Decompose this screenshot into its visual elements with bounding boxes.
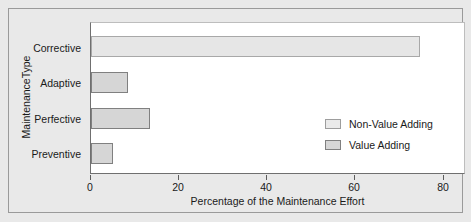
bar-adaptive[interactable]	[91, 72, 128, 93]
x-axis-tick-40	[266, 175, 267, 180]
x-axis-tick-20	[178, 175, 179, 180]
x-axis-title: Percentage of the Maintenance Effort	[90, 195, 465, 207]
x-axis-tick-label-60: 60	[334, 181, 374, 193]
y-axis-tick-label-adaptive: Adaptive	[9, 77, 81, 89]
chart-border-box: MaintenanceType Corrective Adaptive Perf…	[8, 8, 463, 213]
y-axis-tick-label-perfective: Perfective	[9, 113, 81, 125]
y-axis-tick-label-corrective: Corrective	[9, 42, 81, 54]
chart-figure: MaintenanceType Corrective Adaptive Perf…	[0, 0, 471, 222]
legend-item-non-value-adding[interactable]: Non-Value Adding	[325, 115, 433, 132]
bar-corrective[interactable]	[91, 36, 420, 57]
legend: Non-Value Adding Value Adding	[325, 115, 433, 157]
legend-swatch-icon-non-value-adding	[325, 119, 341, 129]
legend-label-value-adding: Value Adding	[349, 139, 410, 151]
x-axis-tick-label-20: 20	[158, 181, 198, 193]
x-axis-tick-60	[354, 175, 355, 180]
bar-preventive[interactable]	[91, 143, 113, 164]
x-axis-tick-label-40: 40	[246, 181, 286, 193]
x-axis-tick-label-80: 80	[423, 181, 463, 193]
bar-row-corrective	[91, 36, 464, 57]
y-axis-tick-label-preventive: Preventive	[9, 148, 81, 160]
legend-label-non-value-adding: Non-Value Adding	[349, 118, 433, 130]
x-axis-tick-0	[90, 175, 91, 180]
legend-item-value-adding[interactable]: Value Adding	[325, 136, 433, 153]
bar-row-adaptive	[91, 72, 464, 93]
y-axis-title-text: MaintenanceType	[20, 56, 32, 139]
bar-perfective[interactable]	[91, 108, 150, 129]
x-axis-tick-80	[443, 175, 444, 180]
x-axis-tick-label-0: 0	[70, 181, 110, 193]
legend-swatch-icon-value-adding	[325, 140, 341, 150]
